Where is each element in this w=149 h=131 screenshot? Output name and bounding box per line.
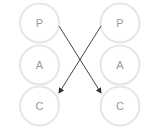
right-adult-label: A [116, 59, 124, 71]
right-parent-state: P [101, 4, 140, 43]
left-column: P A C [20, 4, 59, 126]
left-parent-label: P [36, 17, 43, 29]
left-child-state: C [20, 87, 59, 126]
right-child-state: C [101, 87, 140, 126]
left-adult-label: A [36, 59, 44, 71]
left-parent-state: P [20, 4, 59, 43]
ego-state-diagram: P A C P A C [0, 0, 149, 131]
left-child-label: C [36, 100, 44, 112]
left-adult-state: A [20, 46, 59, 85]
right-parent-label: P [116, 17, 123, 29]
right-child-label: C [116, 100, 124, 112]
right-adult-state: A [101, 46, 140, 85]
right-column: P A C [101, 4, 140, 126]
